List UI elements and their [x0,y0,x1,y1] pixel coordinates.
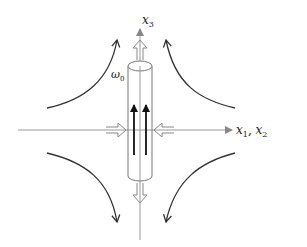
flow-curve-top-right [166,40,235,108]
vortex-stretching-diagram: x3 x1, x2 ω0 [0,0,307,247]
flow-curve-bottom-right [166,153,235,222]
horizontal-axis-label: x1, x2 [236,123,267,139]
flow-curve-top-left [47,40,117,108]
flow-curve-bottom-left [47,153,117,222]
vorticity-label: ω0 [111,68,124,83]
vertical-axis-label: x3 [142,13,154,29]
